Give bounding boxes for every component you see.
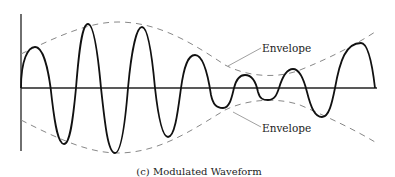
upper-envelope-leader xyxy=(228,48,261,66)
lower-envelope-leader xyxy=(233,112,261,127)
upper-envelope-curve xyxy=(21,22,375,75)
upper-envelope-label: Envelope xyxy=(262,42,311,54)
lower-envelope-label: Envelope xyxy=(262,122,311,134)
modulated-waveform-diagram: Envelope Envelope (c) Modulated Waveform xyxy=(0,0,395,177)
figure-caption: (c) Modulated Waveform xyxy=(136,166,262,177)
